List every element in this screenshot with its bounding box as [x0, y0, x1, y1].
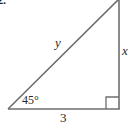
- base-label: 3: [60, 110, 67, 124]
- triangle-diagram: 2. y x 3 45°: [0, 0, 130, 124]
- angle-label: 45°: [22, 93, 39, 107]
- problem-number: 2.: [0, 0, 6, 6]
- right-angle-marker: [106, 97, 119, 109]
- hypotenuse-label: y: [53, 35, 61, 50]
- vertical-leg-label: x: [121, 43, 128, 58]
- triangle-figure: 2. y x 3 45°: [0, 0, 130, 124]
